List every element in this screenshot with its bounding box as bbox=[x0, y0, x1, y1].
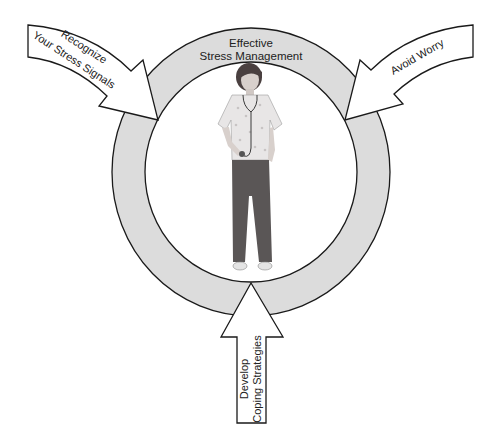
nurse-figure bbox=[218, 63, 282, 270]
center-label-line2: Stress Management bbox=[200, 50, 304, 62]
stress-management-diagram: Effective Stress Management Rec bbox=[0, 0, 500, 447]
arrow-develop-line2: Coping Strategies bbox=[251, 335, 263, 423]
arrow-recognize-stress-signals: Recognize Your Stress Signals bbox=[28, 25, 158, 120]
center-label-line1: Effective bbox=[229, 37, 273, 49]
arrow-avoid-worry: Avoid Worry bbox=[345, 25, 473, 120]
arrow-develop-line1: Develop bbox=[238, 359, 250, 399]
